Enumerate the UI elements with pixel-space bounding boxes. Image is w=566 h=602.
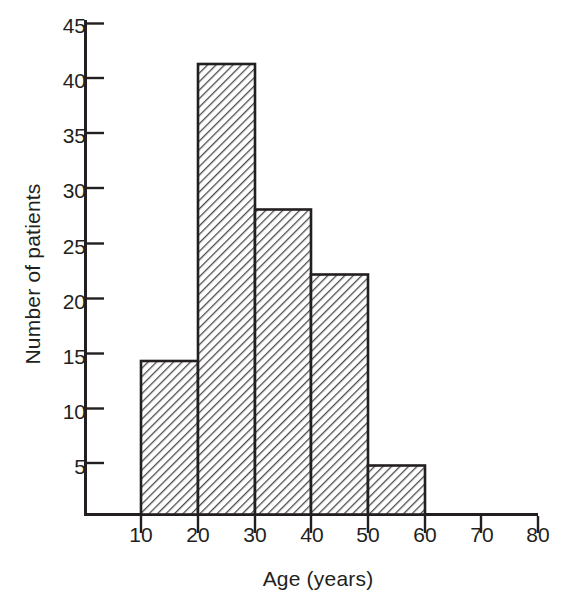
bar-50-60	[368, 466, 425, 515]
bar-20-30	[198, 64, 255, 515]
bar-10-20	[141, 361, 198, 515]
bar-40-50	[311, 275, 368, 515]
y-axis-ticks	[87, 24, 104, 464]
plot-area	[0, 0, 566, 602]
histogram-bars	[141, 64, 425, 515]
histogram-figure: Number of patients Age (years) 5 10 15 2…	[0, 0, 566, 602]
x-axis-ticks	[141, 516, 538, 533]
bar-30-40	[255, 210, 311, 515]
